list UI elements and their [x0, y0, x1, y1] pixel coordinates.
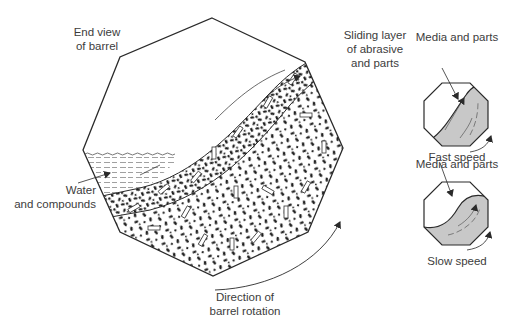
end-view-label: End view of barrel: [52, 25, 142, 53]
fast-speed-barrel: [420, 68, 500, 160]
end-view-line1: End view: [52, 25, 142, 39]
water-line2: and compounds: [0, 197, 96, 211]
slow-speed-caption: Slow speed: [405, 254, 509, 268]
sliding-line2: of abrasive: [320, 42, 430, 56]
main-barrel: [60, 55, 360, 300]
water-line1: Water: [0, 183, 96, 197]
slow-speed-barrel: [420, 163, 500, 260]
fast-media-parts-label: Media and parts: [405, 30, 509, 44]
water-compounds-label: Water and compounds: [0, 183, 96, 211]
slow-media-parts-label: Media and parts: [405, 157, 509, 171]
end-view-line2: of barrel: [52, 39, 142, 53]
sliding-line3: and parts: [320, 56, 430, 70]
direction-rotation-label: Direction of barrel rotation: [185, 290, 305, 317]
direction-line1: Direction of: [185, 290, 305, 304]
direction-line2: barrel rotation: [185, 304, 305, 317]
